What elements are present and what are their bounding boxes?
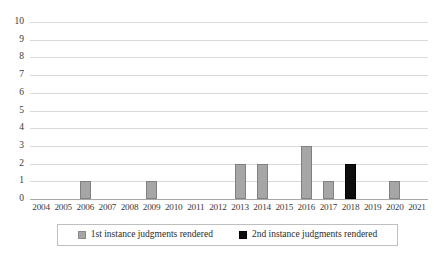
y-axis-tick-label: 7 xyxy=(0,70,24,80)
bar-slot xyxy=(362,22,384,199)
x-axis: 2004200520062007200820092010201120122013… xyxy=(30,201,428,214)
y-axis-tick-label: 2 xyxy=(0,159,24,169)
legend-item[interactable]: 1st instance judgments rendered xyxy=(78,230,213,240)
x-axis-tick-label: 2010 xyxy=(163,201,185,214)
x-axis-tick-label: 2021 xyxy=(406,201,428,214)
x-axis-tick-label: 2005 xyxy=(52,201,74,214)
x-axis-tick-label: 2008 xyxy=(118,201,140,214)
bar xyxy=(323,181,334,199)
x-axis-tick-label: 2015 xyxy=(273,201,295,214)
bar-slot xyxy=(406,22,428,199)
bar xyxy=(389,181,400,199)
bar xyxy=(146,181,157,199)
axis-baseline xyxy=(30,199,428,200)
bar-slot xyxy=(229,22,251,199)
y-axis-tick-label: 5 xyxy=(0,106,24,116)
y-axis-tick-label: 3 xyxy=(0,141,24,151)
x-axis-tick-label: 2017 xyxy=(317,201,339,214)
x-axis-tick-label: 2011 xyxy=(185,201,207,214)
bar-slot xyxy=(118,22,140,199)
y-axis-tick-label: 10 xyxy=(0,17,24,27)
x-axis-tick-label: 2004 xyxy=(30,201,52,214)
legend-item-label: 1st instance judgments rendered xyxy=(91,230,213,240)
black-square-swatch xyxy=(239,231,247,239)
bar xyxy=(301,146,312,199)
bar-slot xyxy=(30,22,52,199)
y-axis-tick-label: 9 xyxy=(0,35,24,45)
x-axis-tick-label: 2009 xyxy=(141,201,163,214)
chart-legend: 1st instance judgments rendered2nd insta… xyxy=(57,224,398,246)
bar-slot xyxy=(340,22,362,199)
bar-slot xyxy=(207,22,229,199)
bar-chart: 2004200520062007200820092010201120122013… xyxy=(0,0,442,265)
bar-slot xyxy=(251,22,273,199)
bar-slot xyxy=(317,22,339,199)
bars-layer xyxy=(30,22,428,199)
y-axis-tick-label: 0 xyxy=(0,194,24,204)
bar-slot xyxy=(141,22,163,199)
x-axis-tick-label: 2016 xyxy=(295,201,317,214)
bar xyxy=(345,164,356,199)
x-axis-tick-label: 2007 xyxy=(96,201,118,214)
bar xyxy=(257,164,268,199)
x-axis-tick-label: 2012 xyxy=(207,201,229,214)
y-axis-tick-label: 8 xyxy=(0,52,24,62)
x-axis-tick-label: 2018 xyxy=(340,201,362,214)
x-axis-tick-label: 2013 xyxy=(229,201,251,214)
legend-item[interactable]: 2nd instance judgments rendered xyxy=(239,230,377,240)
bar-slot xyxy=(185,22,207,199)
y-axis-tick-label: 4 xyxy=(0,123,24,133)
x-axis-tick-label: 2014 xyxy=(251,201,273,214)
bar-slot xyxy=(384,22,406,199)
x-axis-tick-label: 2020 xyxy=(384,201,406,214)
y-axis-tick-label: 1 xyxy=(0,176,24,186)
bar-slot xyxy=(52,22,74,199)
bar-slot xyxy=(295,22,317,199)
bar-slot xyxy=(273,22,295,199)
x-axis-tick-label: 2019 xyxy=(362,201,384,214)
bar xyxy=(235,164,246,199)
bar-slot xyxy=(96,22,118,199)
y-axis-tick-label: 6 xyxy=(0,88,24,98)
legend-item-label: 2nd instance judgments rendered xyxy=(252,230,377,240)
gray-square-swatch xyxy=(78,231,86,239)
x-axis-tick-label: 2006 xyxy=(74,201,96,214)
bar-slot xyxy=(74,22,96,199)
bar-slot xyxy=(163,22,185,199)
bar xyxy=(80,181,91,199)
